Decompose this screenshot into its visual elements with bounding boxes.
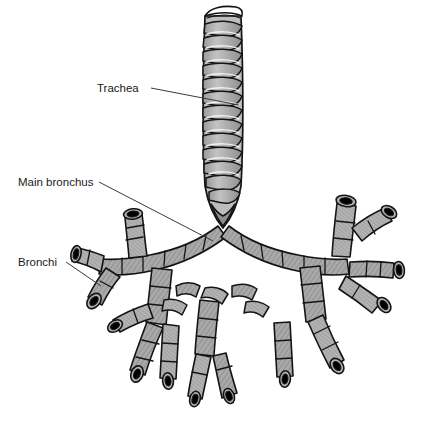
- label-main-bronchus: Main bronchus: [18, 176, 94, 188]
- left-segmental-bronchus-c: [160, 324, 179, 379]
- label-bronchi: Bronchi: [18, 256, 57, 268]
- tracheal-ring: [206, 175, 241, 190]
- right-lateral-bronchus: [349, 261, 394, 278]
- branch-lumen: [396, 264, 403, 275]
- airway-illustration: Trachea Main bronchus Bronchi: [0, 0, 447, 423]
- right-segmental-bronchus-d: [274, 322, 293, 377]
- trachea: [203, 6, 243, 228]
- anatomy-figure: Trachea Main bronchus Bronchi: [0, 0, 447, 423]
- label-trachea: Trachea: [97, 82, 139, 94]
